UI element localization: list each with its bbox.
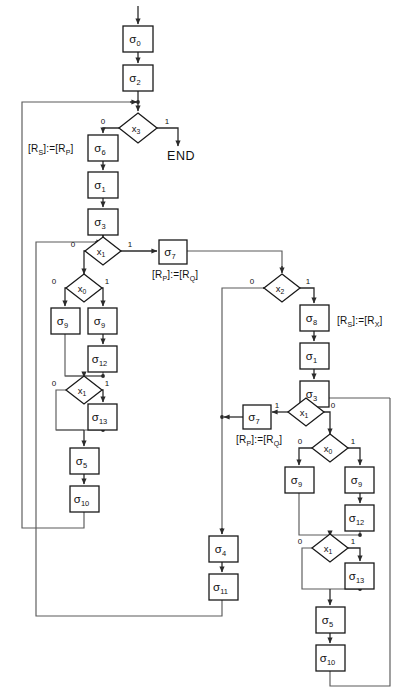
operator-subscript: 10 <box>81 499 89 508</box>
operator-subscript: 13 <box>356 576 364 585</box>
operator-subscript: 5 <box>329 620 333 629</box>
operator-subscript: 3 <box>101 222 105 231</box>
register-assignment: [RP]:=[RQ] <box>152 269 198 283</box>
condition-diamond[interactable]: x2 <box>264 274 300 302</box>
branch-label: 1 <box>275 401 280 410</box>
operator-box[interactable]: σ12 <box>88 346 117 372</box>
operator-box[interactable]: σ9 <box>51 308 80 334</box>
condition-subscript: 1 <box>304 412 308 419</box>
operator-box[interactable]: σ9 <box>345 467 374 493</box>
operator-subscript: 0 <box>136 39 140 48</box>
branch-label: 0 <box>298 437 303 446</box>
operator-subscript: 1 <box>101 185 105 194</box>
operator-box[interactable]: σ6 <box>88 135 118 161</box>
register-assignment: [RS]:=[RP] <box>28 143 74 156</box>
operator-box[interactable]: σ7 <box>243 405 271 429</box>
operator-subscript: 12 <box>356 518 364 527</box>
operator-subscript: 5 <box>83 461 87 470</box>
operator-box[interactable]: σ1 <box>300 343 329 369</box>
branch-label: 0 <box>331 401 336 410</box>
condition-subscript: 1 <box>82 390 86 397</box>
operator-subscript: 4 <box>222 549 226 558</box>
operator-box[interactable]: σ0 <box>123 26 153 52</box>
branch-label: 0 <box>298 537 303 546</box>
operator-box[interactable]: σ10 <box>316 645 345 671</box>
operator-box[interactable]: σ5 <box>316 607 345 633</box>
operator-box[interactable]: σ9 <box>88 308 117 334</box>
condition-diamond[interactable]: x1 <box>85 237 121 265</box>
operator-box[interactable]: σ5 <box>70 448 99 474</box>
operator-subscript: 9 <box>64 321 68 330</box>
register-assignment: [RP]:=[RQ] <box>236 434 282 448</box>
operator-box[interactable]: σ11 <box>209 574 238 600</box>
operator-subscript: 9 <box>358 480 362 489</box>
branch-label: 0 <box>250 277 255 286</box>
condition-subscript: 1 <box>328 548 332 555</box>
operator-subscript: 13 <box>99 417 107 426</box>
operator-subscript: 10 <box>327 658 335 667</box>
operator-box[interactable]: σ9 <box>285 467 314 493</box>
condition-diamond[interactable]: x3 <box>119 113 157 143</box>
flowchart-canvas: σ0σ2σ6σ1σ3σ7σ9σ9σ12σ13σ5σ10σ4σ11σ8σ1σ3σ7… <box>0 0 413 698</box>
branch-label: 1 <box>105 277 110 286</box>
branch-label: 1 <box>306 277 311 286</box>
operator-subscript: 8 <box>313 318 317 327</box>
operator-subscript: 7 <box>171 252 175 261</box>
operator-box[interactable]: σ13 <box>88 404 117 430</box>
operator-subscript: 11 <box>220 587 228 596</box>
operator-subscript: 9 <box>298 480 302 489</box>
operator-subscript: 12 <box>99 359 107 368</box>
operator-box[interactable]: σ1 <box>88 172 118 198</box>
operator-box[interactable]: σ12 <box>345 505 374 531</box>
branch-label: 1 <box>165 117 170 126</box>
condition-subscript: 2 <box>280 288 284 295</box>
condition-diamond[interactable]: x1 <box>66 376 102 404</box>
operator-box[interactable]: σ8 <box>300 305 329 331</box>
operator-box[interactable]: σ7 <box>159 240 187 264</box>
operator-subscript: 2 <box>136 78 140 87</box>
condition-diamond[interactable]: x0 <box>312 434 348 462</box>
branch-label: 0 <box>101 117 106 126</box>
operator-subscript: 6 <box>101 148 105 157</box>
condition-subscript: 1 <box>101 251 105 258</box>
condition-diamond[interactable]: x1 <box>312 534 348 562</box>
operator-box[interactable]: σ2 <box>123 65 153 91</box>
operator-box[interactable]: σ13 <box>345 563 374 589</box>
branch-label: 1 <box>351 437 356 446</box>
branch-label: 0 <box>52 277 57 286</box>
terminal-end: END <box>167 149 195 163</box>
node-layer: σ0σ2σ6σ1σ3σ7σ9σ9σ12σ13σ5σ10σ4σ11σ8σ1σ3σ7… <box>51 26 374 671</box>
operator-subscript: 1 <box>313 356 317 365</box>
branch-label: 1 <box>351 537 356 546</box>
condition-subscript: 0 <box>82 288 86 295</box>
operator-box[interactable]: σ4 <box>209 536 238 562</box>
operator-subscript: 9 <box>101 321 105 330</box>
operator-box[interactable]: σ3 <box>88 209 118 235</box>
operator-box[interactable]: σ10 <box>70 486 99 512</box>
branch-label: 0 <box>52 379 57 388</box>
operator-subscript: 3 <box>313 394 317 403</box>
branch-label: 1 <box>128 240 133 249</box>
branch-label: 1 <box>105 379 110 388</box>
flowchart-svg: σ0σ2σ6σ1σ3σ7σ9σ9σ12σ13σ5σ10σ4σ11σ8σ1σ3σ7… <box>0 0 413 698</box>
branch-label: 0 <box>71 240 76 249</box>
condition-subscript: 0 <box>328 448 332 455</box>
register-assignment: [RS]:=[RX] <box>337 315 383 328</box>
condition-subscript: 3 <box>136 128 140 135</box>
operator-subscript: 7 <box>255 417 259 426</box>
condition-diamond[interactable]: x0 <box>66 274 102 302</box>
edge-layer <box>22 6 390 686</box>
